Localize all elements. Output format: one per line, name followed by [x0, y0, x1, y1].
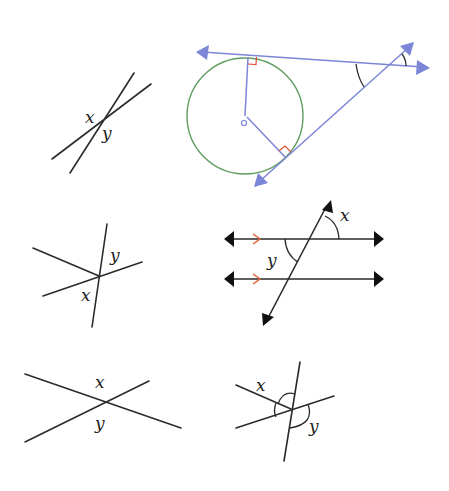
diagram-star-lines: y x [33, 224, 142, 327]
diagram-parallel-transversal: x y [224, 200, 384, 326]
geometry-figure: x y y x [0, 0, 449, 491]
tangent-line-2 [260, 48, 408, 181]
angle-arc-y [285, 239, 298, 262]
label-y: y [308, 416, 319, 436]
arrowhead-icon [374, 271, 384, 287]
label-y: y [266, 250, 277, 270]
label-x: x [340, 205, 350, 225]
label-x: x [256, 375, 266, 395]
arrowhead-icon [374, 231, 384, 247]
diagram-three-lines-arcs: x y [236, 362, 334, 461]
line-c [236, 396, 334, 428]
center-point [242, 121, 247, 126]
angle-arc-x [325, 216, 339, 239]
angle-arc [278, 393, 295, 404]
arrowhead-icon [262, 313, 274, 326]
label-x: x [95, 372, 105, 392]
arrowhead-icon [196, 45, 209, 60]
right-angle-mark [279, 146, 291, 152]
angle-arc [275, 403, 277, 417]
arrowhead-icon [224, 271, 234, 287]
label-x: x [85, 107, 95, 127]
diagram-circle-tangents [187, 42, 430, 187]
diagram-vertical-angles-wide: x y [25, 372, 181, 442]
line-b [25, 381, 149, 442]
label-x: x [81, 285, 91, 305]
diagram-vertical-angles-narrow: x y [52, 73, 151, 173]
transversal [268, 207, 326, 318]
line-b [33, 248, 99, 276]
line-a [52, 84, 151, 159]
label-y: y [94, 413, 105, 433]
angle-arc [402, 54, 406, 66]
label-y: y [101, 123, 112, 143]
label-y: y [109, 245, 120, 265]
arrowhead-icon [224, 231, 234, 247]
arrowhead-icon [416, 60, 430, 75]
line-c [43, 262, 142, 296]
angle-arc [356, 64, 364, 87]
radius-1 [245, 57, 248, 116]
